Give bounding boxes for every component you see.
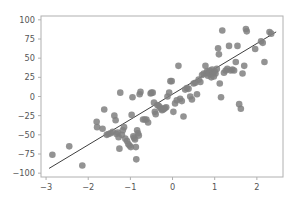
scatter-point — [175, 63, 182, 70]
scatter-point — [179, 98, 186, 105]
scatter-point — [112, 117, 119, 124]
scatter-point — [121, 124, 128, 131]
x-tick-label: −1 — [124, 182, 136, 192]
x-tick-label: 1 — [212, 182, 217, 192]
scatter-point — [241, 63, 248, 70]
scatter-point — [79, 162, 86, 169]
scatter-point — [238, 105, 245, 112]
scatter-figure: −100−75−50−250255075100 −3−2−1012 — [0, 0, 299, 204]
scatter-point — [219, 27, 226, 34]
y-tick-label: −100 — [13, 168, 36, 178]
y-tick-label: −75 — [18, 149, 35, 159]
scatter-point — [215, 45, 222, 52]
scatter-point — [268, 30, 275, 37]
scatter-point — [128, 112, 135, 119]
x-tick-label: 2 — [254, 182, 259, 192]
tick-marks-group — [38, 20, 257, 180]
scatter-point — [259, 40, 266, 47]
scatter-point — [163, 104, 170, 111]
y-tick-label: 100 — [19, 15, 35, 25]
scatter-point — [252, 46, 259, 53]
scatter-point — [117, 89, 124, 96]
scatter-point — [149, 89, 156, 96]
x-tick-label: −3 — [40, 182, 52, 192]
scatter-point — [152, 111, 159, 118]
scatter-point — [197, 79, 204, 86]
scatter-point — [133, 156, 140, 163]
scatter-point — [216, 80, 223, 87]
scatter-point — [166, 89, 173, 96]
y-axis-tick-labels: −100−75−50−250255075100 — [13, 15, 36, 178]
scatter-point — [49, 151, 56, 158]
x-tick-label: 0 — [170, 182, 175, 192]
scatter-point — [189, 96, 196, 103]
y-tick-label: 25 — [25, 72, 35, 82]
scatter-point — [99, 125, 106, 132]
x-axis-tick-labels: −3−2−1012 — [40, 182, 259, 192]
scatter-point — [243, 28, 250, 35]
scatter-point — [232, 59, 239, 66]
y-tick-label: 0 — [30, 92, 35, 102]
x-tick-label: −2 — [82, 182, 94, 192]
scatter-point — [216, 51, 223, 58]
scatter-point — [136, 132, 143, 139]
scatter-point — [239, 70, 246, 77]
scatter-point — [133, 144, 140, 151]
plot-canvas: −100−75−50−250255075100 −3−2−1012 — [0, 0, 299, 204]
y-tick-label: 50 — [25, 53, 35, 63]
scatter-point — [234, 43, 241, 50]
scatter-point — [194, 91, 201, 98]
scatter-points-group — [49, 26, 274, 169]
scatter-point — [129, 94, 136, 101]
scatter-point — [145, 119, 152, 126]
scatter-point — [261, 59, 268, 66]
scatter-point — [101, 106, 108, 113]
y-tick-label: 75 — [25, 34, 35, 44]
axes-frame — [41, 16, 283, 177]
y-tick-label: −50 — [18, 130, 35, 140]
regression-fit-line — [49, 32, 275, 168]
scatter-point — [214, 66, 221, 73]
scatter-point — [116, 145, 123, 152]
scatter-point — [218, 94, 225, 101]
scatter-point — [66, 143, 73, 150]
scatter-point — [185, 86, 192, 93]
scatter-point — [226, 43, 233, 50]
scatter-point — [168, 78, 175, 85]
scatter-point — [170, 109, 177, 116]
y-tick-label: −25 — [18, 111, 35, 121]
scatter-point — [180, 113, 187, 120]
scatter-point — [137, 89, 144, 96]
scatter-point — [231, 67, 238, 74]
